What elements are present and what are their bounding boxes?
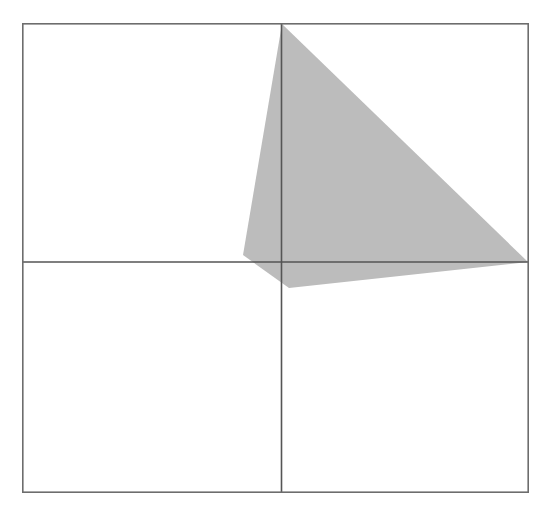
- diagram-svg: [0, 0, 549, 517]
- figure-canvas: Shaded quadrilateral region in a bordere…: [0, 0, 549, 517]
